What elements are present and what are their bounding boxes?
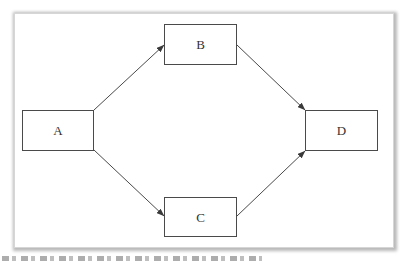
node-a: A [23,111,94,151]
node-b-label: B [196,37,205,52]
node-b: B [165,25,237,65]
cropped-caption [0,256,406,261]
edge-a-to-b [94,45,164,110]
node-d-label: D [337,123,346,138]
node-c: C [165,198,237,237]
node-d: D [306,111,378,151]
node-a-label: A [53,123,63,138]
edge-b-to-d [237,45,305,110]
edge-c-to-d [237,151,305,216]
flow-diagram: A B C D [0,0,406,261]
edge-a-to-c [94,150,164,216]
node-c-label: C [196,210,205,225]
